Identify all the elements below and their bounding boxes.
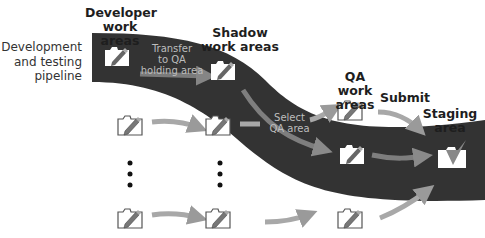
select-label-line: QA area — [262, 123, 317, 134]
pipeline-label-line: Development — [0, 40, 82, 55]
transfer-label-line: Transfer — [137, 43, 207, 54]
dev-folder-n-icon — [118, 209, 142, 228]
shadow-label-line: Shadow — [200, 26, 280, 40]
qa-folder-n-icon — [338, 209, 362, 228]
qa-label-line: QA — [320, 70, 390, 84]
transfer-label-line: to QA — [137, 54, 207, 65]
pipeline-label: Development and testing pipeline — [0, 40, 82, 84]
staging-label: Staging area — [420, 107, 480, 135]
shadow-folder-2-icon — [206, 116, 230, 135]
pipeline-label-line: and testing — [0, 55, 82, 70]
staging-label-line: Staging — [420, 107, 480, 121]
dev-folder-2-icon — [118, 116, 142, 135]
vertical-dots-icon — [128, 161, 223, 188]
submit-label: Submit — [375, 91, 435, 105]
shadow-folder-n-icon — [206, 209, 230, 228]
transfer-label-line: holding area — [137, 65, 207, 76]
shadow-label-line: work areas — [200, 40, 280, 54]
pipeline-label-line: pipeline — [0, 69, 82, 84]
developer-label: Developer work areas — [85, 6, 155, 48]
developer-label-line: Developer — [85, 6, 155, 20]
select-label: Select QA area — [262, 112, 317, 134]
transfer-label: Transfer to QA holding area — [137, 43, 207, 76]
shadow-label: Shadow work areas — [200, 26, 280, 54]
staging-label-line: area — [420, 121, 480, 135]
select-label-line: Select — [262, 112, 317, 123]
